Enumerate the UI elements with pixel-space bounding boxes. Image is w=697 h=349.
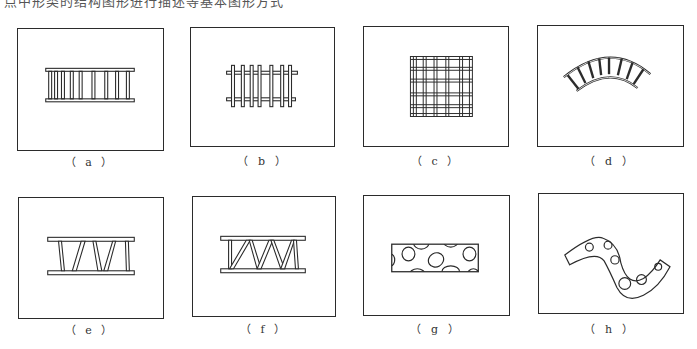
zigzag-truss-figure xyxy=(193,197,335,316)
panel-f-frame xyxy=(192,196,336,317)
slanted-truss-figure xyxy=(19,198,163,318)
panel-h-frame xyxy=(538,193,684,314)
ladder-protruding-figure xyxy=(191,28,334,146)
header-text: 点中形类的结构图形进行描述等基本图形方式 xyxy=(4,0,284,10)
panel-a-caption: （ a ） xyxy=(60,153,120,169)
panel-b-caption: （ b ） xyxy=(233,152,293,168)
panel-a-frame xyxy=(17,28,164,151)
holed-rectangular-beam-figure xyxy=(364,196,509,315)
panel-g-caption: （ g ） xyxy=(406,320,466,336)
panel-c-caption: （ c ） xyxy=(406,152,466,168)
panel-e-frame xyxy=(18,197,164,319)
panel-f-caption: （ f ） xyxy=(234,320,294,336)
panel-d-caption: （ d ） xyxy=(580,152,640,168)
curved-ladder-figure xyxy=(538,26,683,146)
panel-b-frame xyxy=(190,27,335,147)
panel-g-frame xyxy=(363,195,510,316)
panel-d-frame xyxy=(537,25,684,147)
curved-holed-beam-figure xyxy=(539,194,683,313)
grid-mesh-figure xyxy=(364,27,508,146)
panel-h-caption: （ h ） xyxy=(580,320,640,336)
panel-e-caption: （ e ） xyxy=(60,321,120,337)
ladder-straight-figure xyxy=(18,29,163,150)
panel-c-frame xyxy=(363,26,509,147)
